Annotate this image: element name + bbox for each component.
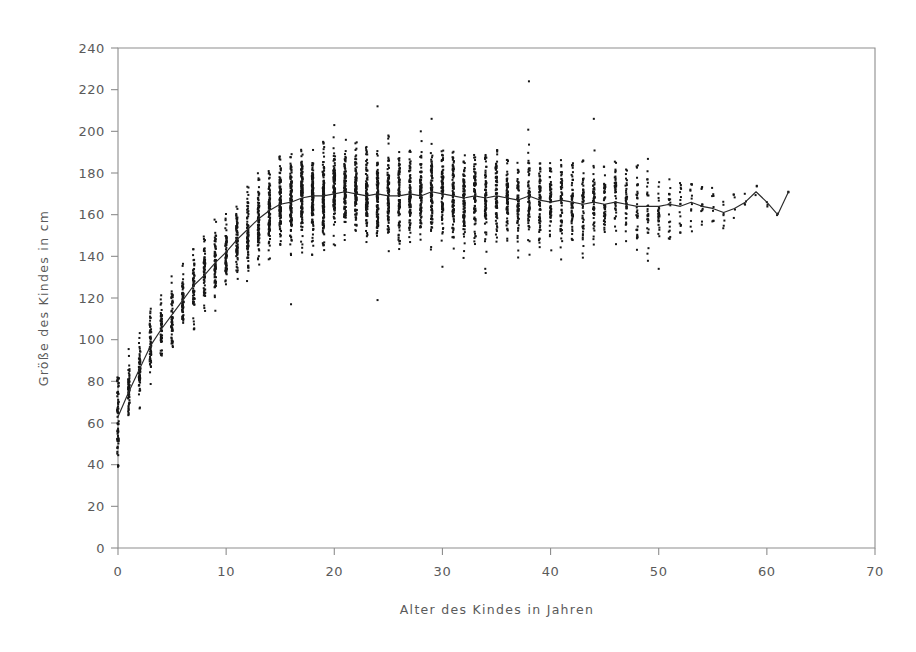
data-point: [344, 156, 346, 158]
data-point: [539, 202, 541, 204]
data-point: [344, 164, 346, 166]
data-point: [464, 228, 466, 230]
data-point: [529, 240, 531, 242]
data-point: [539, 213, 541, 215]
data-point: [408, 227, 410, 229]
data-point: [453, 208, 455, 210]
data-point: [323, 249, 325, 251]
data-point: [139, 353, 141, 355]
data-point: [128, 384, 130, 386]
data-point: [409, 167, 411, 169]
data-point: [139, 351, 141, 353]
data-point: [214, 274, 216, 276]
data-point: [430, 249, 432, 251]
data-point: [203, 257, 205, 259]
data-point: [203, 294, 205, 296]
data-point: [614, 226, 616, 228]
data-point: [149, 310, 151, 312]
data-point: [431, 202, 433, 204]
data-point: [517, 227, 519, 229]
data-point: [322, 164, 324, 166]
data-point: [150, 365, 152, 367]
data-point: [571, 203, 573, 205]
data-point: [344, 194, 346, 196]
data-point: [333, 136, 335, 138]
data-point: [344, 159, 346, 161]
data-point: [593, 203, 595, 205]
data-point: [366, 208, 368, 210]
data-point: [268, 241, 270, 243]
data-point: [549, 162, 551, 164]
data-point: [561, 178, 563, 180]
data-point: [409, 181, 411, 183]
data-point: [279, 176, 281, 178]
data-point: [668, 178, 670, 180]
data-point: [150, 383, 152, 385]
data-point: [203, 305, 205, 307]
data-point: [160, 302, 162, 304]
data-point: [323, 180, 325, 182]
data-point: [506, 207, 508, 209]
data-point: [453, 218, 455, 220]
data-point: [323, 156, 325, 158]
data-point: [463, 181, 465, 183]
data-point: [614, 183, 616, 185]
data-point: [484, 174, 486, 176]
data-point: [268, 182, 270, 184]
data-point: [637, 183, 639, 185]
data-point: [312, 245, 314, 247]
data-point: [646, 186, 648, 188]
data-point: [170, 297, 172, 299]
data-point: [257, 197, 259, 199]
data-point: [279, 222, 281, 224]
data-point: [431, 164, 433, 166]
data-point: [344, 234, 346, 236]
data-point: [463, 233, 465, 235]
data-point: [420, 155, 422, 157]
data-point: [355, 170, 357, 172]
data-point: [690, 226, 692, 228]
data-point: [496, 223, 498, 225]
data-point: [442, 186, 444, 188]
data-point: [171, 337, 173, 339]
data-point: [430, 184, 432, 186]
data-point-outlier: [333, 124, 335, 126]
data-point: [495, 241, 497, 243]
data-point: [484, 238, 486, 240]
data-point: [420, 182, 422, 184]
data-point: [647, 158, 649, 160]
data-point: [507, 185, 509, 187]
data-point: [496, 230, 498, 232]
data-point: [118, 401, 120, 403]
data-point: [582, 231, 584, 233]
data-point: [192, 254, 194, 256]
data-point: [280, 179, 282, 181]
data-point: [560, 237, 562, 239]
data-point: [302, 154, 304, 156]
data-point: [311, 164, 313, 166]
data-point: [247, 238, 249, 240]
data-point: [582, 207, 584, 209]
data-point: [246, 242, 248, 244]
data-point: [539, 246, 541, 248]
data-point: [376, 235, 378, 237]
data-point: [376, 164, 378, 166]
data-point: [150, 325, 152, 327]
data-point: [625, 240, 627, 242]
data-point: [387, 168, 389, 170]
data-point: [355, 177, 357, 179]
data-point: [116, 409, 118, 411]
data-point: [387, 184, 389, 186]
data-point: [291, 196, 293, 198]
data-point: [561, 240, 563, 242]
data-point: [224, 280, 226, 282]
data-point: [690, 208, 692, 210]
data-point: [571, 233, 573, 235]
data-point: [181, 311, 183, 313]
data-point: [278, 206, 280, 208]
data-point: [139, 348, 141, 350]
data-point: [495, 165, 497, 167]
y-tick-label: 220: [78, 82, 105, 97]
data-point: [474, 233, 476, 235]
data-point: [431, 212, 433, 214]
